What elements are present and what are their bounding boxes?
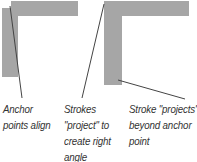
label-line: point [129,133,197,149]
label-line: "project" to [64,117,111,133]
label-line: create right [64,133,111,149]
label-line: points align [3,117,50,133]
middle-leader-line [82,4,104,98]
label-line: Strokes [64,101,111,117]
right-vertical-stroke [104,1,122,85]
label-line: Anchor [3,101,50,117]
label-line: angle [64,149,111,162]
left-vertical-stroke [2,8,18,77]
left-horizontal-stroke [11,1,78,16]
right-leader-line [118,80,185,99]
label-strokes-project: Strokes "project" to create right angle [64,101,111,162]
label-line: Stroke "projects" [129,101,197,117]
label-stroke-projects-beyond: Stroke "projects" beyond anchor point [129,101,197,149]
label-line: beyond anchor [129,117,197,133]
label-anchor-points-align: Anchor points align [3,101,50,133]
